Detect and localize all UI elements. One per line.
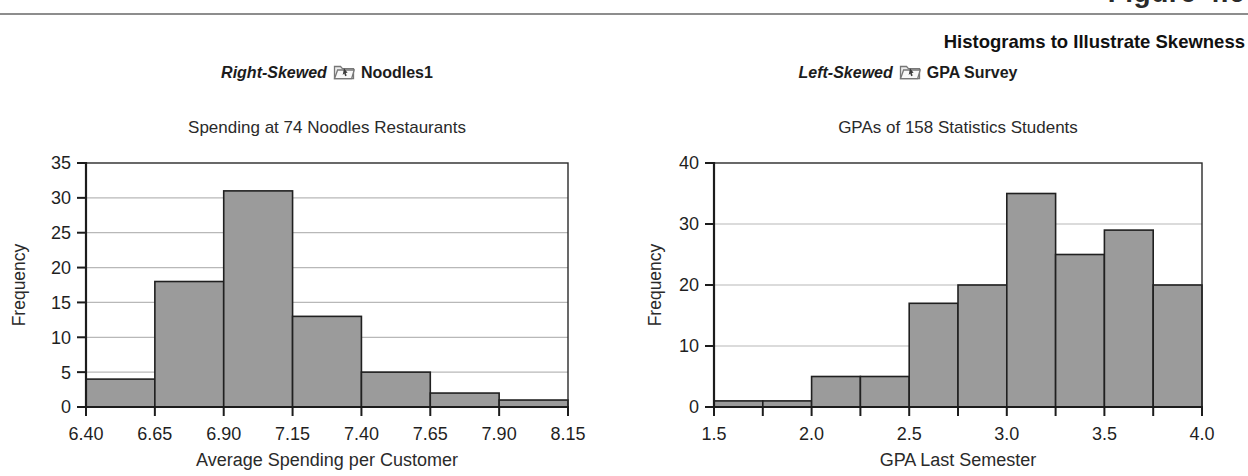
histogram-right-skewed-plot: 051015202530356.406.656.907.157.407.657.… <box>0 150 620 450</box>
figure-number-text: Figure 4.6 <box>1025 0 1245 7</box>
svg-text:1.5: 1.5 <box>701 424 726 444</box>
svg-text:7.15: 7.15 <box>275 424 310 444</box>
svg-text:30: 30 <box>51 188 71 208</box>
folder-data-icon <box>899 63 921 84</box>
x-axis-label-left: Average Spending per Customer <box>86 450 568 471</box>
svg-text:10: 10 <box>51 328 71 348</box>
folder-data-icon <box>333 63 355 84</box>
svg-text:0: 0 <box>61 397 71 417</box>
svg-text:8.15: 8.15 <box>550 424 585 444</box>
svg-text:5: 5 <box>61 363 71 383</box>
svg-text:15: 15 <box>51 293 71 313</box>
svg-text:10: 10 <box>679 336 699 356</box>
svg-text:6.65: 6.65 <box>137 424 172 444</box>
dataset-label-left: Noodles1 <box>361 64 433 82</box>
histogram-left-skewed-plot: 0102030401.52.02.53.03.54.0 <box>620 150 1248 450</box>
figure-number-cropped: Figure 4.6 <box>1025 0 1245 9</box>
svg-text:25: 25 <box>51 223 71 243</box>
skew-label-right: Left-Skewed <box>799 64 893 82</box>
svg-text:7.65: 7.65 <box>413 424 448 444</box>
top-divider-rule <box>0 13 1248 15</box>
svg-text:7.90: 7.90 <box>482 424 517 444</box>
panel-subtitle-right: Left-Skewed GPA Survey <box>664 62 1152 84</box>
svg-text:20: 20 <box>51 258 71 278</box>
svg-text:20: 20 <box>679 275 699 295</box>
svg-text:2.0: 2.0 <box>799 424 824 444</box>
svg-text:0: 0 <box>689 397 699 417</box>
svg-text:30: 30 <box>679 214 699 234</box>
svg-text:3.0: 3.0 <box>994 424 1019 444</box>
panel-subtitle-left: Right-Skewed Noodles1 <box>86 62 568 84</box>
svg-text:4.0: 4.0 <box>1189 424 1214 444</box>
svg-text:7.40: 7.40 <box>344 424 379 444</box>
chart-title-right: GPAs of 158 Statistics Students <box>714 118 1202 138</box>
figure-header-title: Histograms to Illustrate Skewness <box>944 31 1245 53</box>
svg-text:2.5: 2.5 <box>897 424 922 444</box>
svg-text:35: 35 <box>51 153 71 173</box>
svg-text:6.90: 6.90 <box>206 424 241 444</box>
svg-text:3.5: 3.5 <box>1092 424 1117 444</box>
x-axis-label-right: GPA Last Semester <box>714 450 1202 471</box>
svg-text:6.40: 6.40 <box>68 424 103 444</box>
svg-text:40: 40 <box>679 153 699 173</box>
dataset-label-right: GPA Survey <box>927 64 1018 82</box>
chart-title-left: Spending at 74 Noodles Restaurants <box>86 118 568 138</box>
skew-label-left: Right-Skewed <box>221 64 327 82</box>
